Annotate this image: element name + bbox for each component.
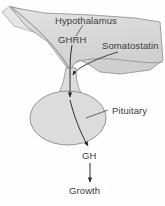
label-ghrh: GHRH — [58, 34, 86, 45]
label-gh: GH — [82, 150, 96, 161]
label-somatostatin: Somatostatin — [102, 40, 159, 51]
growth-hormone-diagram: Hypothalamus GHRH Somatostatin Pituitary… — [0, 0, 165, 206]
pituitary-shape — [30, 91, 106, 145]
anatomy-illustration — [0, 0, 165, 206]
label-growth: Growth — [69, 185, 100, 196]
label-hypothalamus: Hypothalamus — [55, 15, 117, 26]
label-pituitary: Pituitary — [112, 105, 147, 116]
